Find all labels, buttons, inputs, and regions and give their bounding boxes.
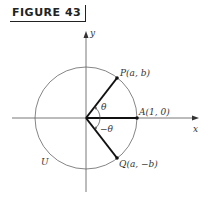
x-axis-label: x xyxy=(193,124,198,134)
x-axis-arrow-icon xyxy=(192,116,199,121)
y-axis-arrow-icon xyxy=(84,31,89,38)
unit-circle-diagram: y x P(a, b) A(1, 0) Q(a, −b) θ −θ U xyxy=(0,0,205,204)
theta-label: θ xyxy=(101,102,107,112)
y-axis-label: y xyxy=(89,28,96,38)
point-a-label: A(1, 0) xyxy=(138,107,170,117)
neg-theta-label: −θ xyxy=(100,124,114,134)
point-p-label: P(a, b) xyxy=(119,68,150,78)
point-p xyxy=(115,76,119,80)
point-q-label: Q(a, −b) xyxy=(119,159,158,169)
radius-op xyxy=(86,78,117,118)
circle-label: U xyxy=(41,157,49,167)
